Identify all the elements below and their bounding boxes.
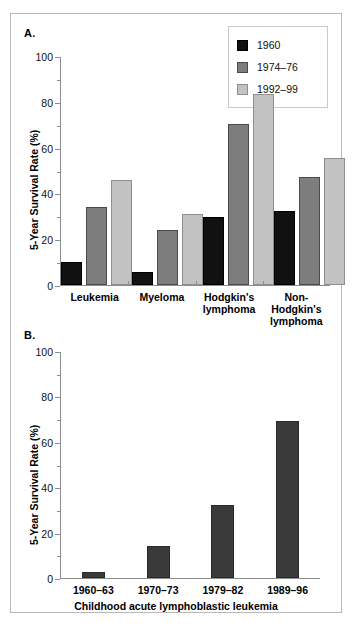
- bar: [82, 572, 105, 578]
- bar-group: [274, 57, 345, 285]
- bar-group: [191, 352, 256, 578]
- y-tick-mark: [55, 240, 60, 241]
- panel-b-bar-groups: [61, 352, 320, 578]
- category-label: 1970–73: [126, 584, 191, 596]
- y-tick-mark-minor: [57, 511, 60, 512]
- bar: [111, 180, 132, 285]
- y-tick-mark-minor: [57, 126, 60, 127]
- panel-b-x-axis-label: Childhood acute lymphoblastic leukemia: [0, 600, 352, 612]
- y-tick-label: 80: [41, 97, 53, 109]
- category-label: 1960–63: [61, 584, 126, 596]
- category-label-line: lymphoma: [196, 303, 263, 315]
- bar: [253, 94, 274, 285]
- y-tick-label: 60: [41, 437, 53, 449]
- y-tick-mark: [55, 149, 60, 150]
- category-label: 1979–82: [191, 584, 256, 596]
- category-label-line: Leukemia: [61, 291, 128, 303]
- y-tick-mark-minor: [57, 263, 60, 264]
- figure-root: A. 5-Year Survival Rate (%) 1960 1974–76…: [0, 0, 352, 626]
- legend-label-1960: 1960: [257, 39, 280, 51]
- category-label: Hodgkin'slymphoma: [196, 291, 263, 327]
- bar-group: [132, 57, 203, 285]
- legend-item-1960: 1960: [237, 34, 317, 56]
- y-tick-mark: [55, 488, 60, 489]
- bar: [276, 421, 299, 578]
- y-tick-label: 100: [35, 346, 53, 358]
- panel-a-category-labels: LeukemiaMyelomaHodgkin'slymphomaNon-Hodg…: [61, 291, 330, 327]
- group-separator: [128, 281, 129, 286]
- y-tick-mark-minor: [57, 80, 60, 81]
- category-label-line: Hodgkin's: [196, 291, 263, 303]
- y-tick-mark: [55, 397, 60, 398]
- y-tick-mark-minor: [57, 466, 60, 467]
- bar: [203, 217, 224, 285]
- bar: [132, 272, 153, 285]
- bar-group: [203, 57, 274, 285]
- category-label-line: Hodgkin's: [263, 303, 330, 315]
- category-label: Leukemia: [61, 291, 128, 327]
- y-tick-mark: [55, 352, 60, 353]
- panel-b-category-labels: 1960–631970–731979–821989–96: [61, 584, 320, 596]
- panel-b-y-axis-label: 5-Year Survival Rate (%): [28, 425, 40, 545]
- bar: [157, 230, 178, 285]
- y-tick-mark: [55, 443, 60, 444]
- panel-a-bar-groups: [61, 57, 330, 285]
- y-tick-mark: [55, 103, 60, 104]
- category-label-line: Myeloma: [128, 291, 195, 303]
- bar: [147, 546, 170, 578]
- bar: [61, 262, 82, 285]
- y-tick-mark-minor: [57, 217, 60, 218]
- y-tick-label: 20: [41, 234, 53, 246]
- y-tick-label: 0: [47, 573, 53, 585]
- group-separator: [196, 281, 197, 286]
- y-tick-mark-minor: [57, 172, 60, 173]
- y-tick-mark: [55, 579, 60, 580]
- panel-a-letter: A.: [24, 27, 35, 39]
- group-separator: [263, 281, 264, 286]
- y-tick-label: 100: [35, 51, 53, 63]
- y-tick-label: 0: [47, 280, 53, 292]
- bar: [228, 124, 249, 285]
- bar: [324, 158, 345, 285]
- bar: [211, 505, 234, 578]
- y-tick-mark-minor: [57, 375, 60, 376]
- bar: [299, 177, 320, 285]
- y-tick-mark: [55, 57, 60, 58]
- y-tick-mark: [55, 534, 60, 535]
- bar: [182, 214, 203, 285]
- category-label: Myeloma: [128, 291, 195, 327]
- y-tick-label: 20: [41, 528, 53, 540]
- category-label: Non-Hodgkin'slymphoma: [263, 291, 330, 327]
- panel-b-plot-area: 020406080100: [60, 352, 320, 579]
- y-tick-label: 80: [41, 391, 53, 403]
- y-tick-label: 40: [41, 188, 53, 200]
- bar: [274, 211, 295, 285]
- bar-group: [255, 352, 320, 578]
- y-tick-mark-minor: [57, 420, 60, 421]
- bar-group: [61, 57, 132, 285]
- y-tick-label: 40: [41, 482, 53, 494]
- panel-a-y-axis-label: 5-Year Survival Rate (%): [28, 130, 40, 250]
- bar-group: [61, 352, 126, 578]
- legend-swatch-icon-1960: [237, 40, 248, 51]
- y-tick-mark: [55, 194, 60, 195]
- category-label-line: lymphoma: [263, 315, 330, 327]
- y-tick-mark: [55, 286, 60, 287]
- bar: [86, 207, 107, 285]
- panel-b-letter: B.: [24, 329, 35, 341]
- category-label-line: Non-: [263, 291, 330, 303]
- category-label: 1989–96: [255, 584, 320, 596]
- panel-a-plot-area: 020406080100: [60, 57, 330, 286]
- y-tick-mark-minor: [57, 556, 60, 557]
- y-tick-label: 60: [41, 143, 53, 155]
- panel-b-x-axis: [60, 578, 320, 579]
- bar-group: [126, 352, 191, 578]
